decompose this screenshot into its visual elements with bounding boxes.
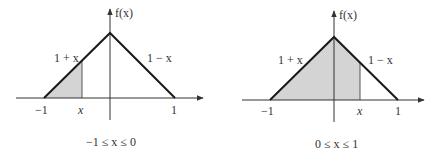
right-shaded-area — [270, 37, 360, 100]
right-caption: 0 ≤ x ≤ 1 — [315, 137, 358, 151]
left-right-line-label: 1 − x — [147, 51, 172, 65]
right-tick-one: 1 — [395, 104, 401, 118]
right-right-line-label: 1 − x — [368, 53, 393, 67]
right-y-axis-label: f(x) — [339, 8, 357, 22]
left-y-axis-label: f(x) — [115, 6, 133, 20]
left-panel: f(x) 1 + x 1 − x −1 x 1 −1 ≤ x ≤ 0 — [16, 6, 203, 149]
left-tick-x: x — [77, 103, 84, 117]
right-panel: f(x) 1 + x 1 − x −1 x 1 0 ≤ x ≤ 1 — [242, 8, 424, 151]
right-tick-x: x — [356, 104, 363, 118]
left-left-line-label: 1 + x — [54, 51, 79, 65]
left-caption: −1 ≤ x ≤ 0 — [86, 135, 136, 149]
triangle-function-diagrams: f(x) 1 + x 1 − x −1 x 1 −1 ≤ x ≤ 0 f(x) … — [0, 0, 442, 159]
left-tick-one: 1 — [171, 103, 177, 117]
right-left-line-label: 1 + x — [278, 53, 303, 67]
right-tick-neg-one: −1 — [261, 104, 274, 118]
left-tick-neg-one: −1 — [35, 103, 48, 117]
